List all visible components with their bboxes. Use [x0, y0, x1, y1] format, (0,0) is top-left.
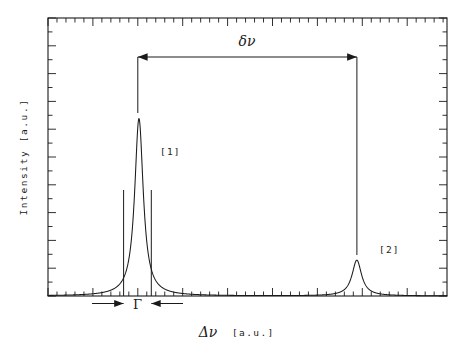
peak-tag-2: [2]	[379, 244, 400, 255]
peak-tag-1: [1]	[160, 146, 181, 157]
fwhm-arrowhead-right	[151, 300, 160, 307]
separation-symbol-label: δν	[239, 33, 256, 49]
separation-arrowhead-left	[138, 53, 148, 60]
spectrum-plot: δν Γ [1] [2] Intensity [a.u.] Δν [a.u.]	[0, 0, 465, 355]
left-axis-ticks	[48, 18, 56, 296]
x-axis-label-symbol: Δν	[198, 324, 218, 340]
figure-root: δν Γ [1] [2] Intensity [a.u.] Δν [a.u.]	[0, 0, 465, 355]
y-axis-label: Intensity [a.u.]	[18, 98, 29, 215]
separation-annotation: δν	[138, 33, 357, 61]
x-axis-label-units: [a.u.]	[232, 327, 275, 338]
right-axis-ticks	[439, 18, 447, 296]
separation-arrowhead-right	[347, 53, 357, 60]
spectrum-curve	[48, 119, 447, 296]
x-axis-label: Δν [a.u.]	[198, 324, 275, 340]
fwhm-arrowhead-left	[114, 300, 123, 307]
linewidth-symbol-label: Γ	[133, 297, 142, 312]
top-axis-ticks	[48, 18, 443, 26]
